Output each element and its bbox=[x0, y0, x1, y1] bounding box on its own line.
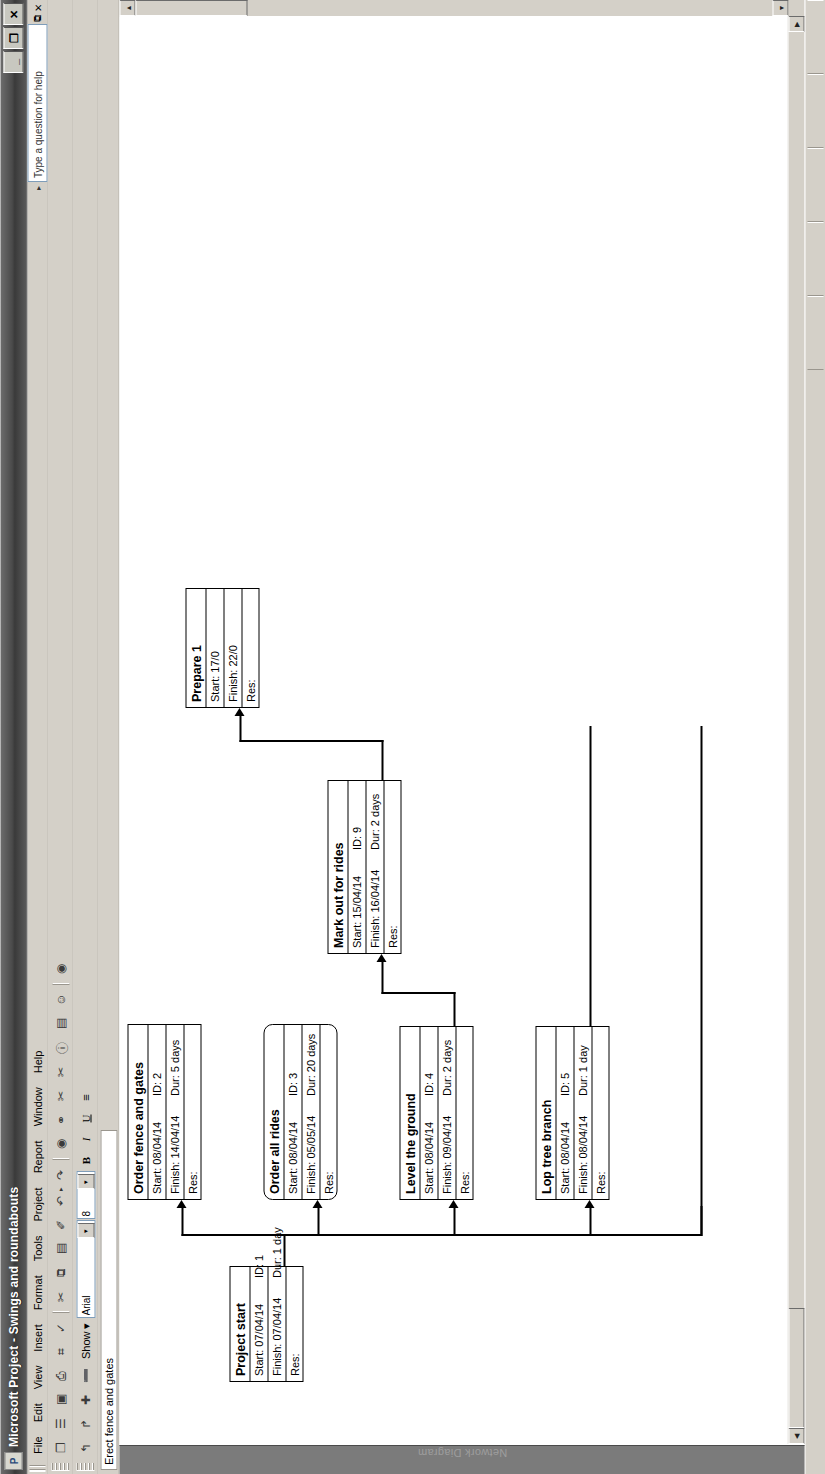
finish-value: 09/04/14 bbox=[440, 1116, 453, 1159]
task-node-row-start: Start: 08/04/14 ID: 4 bbox=[419, 1027, 437, 1199]
network-diagram-canvas[interactable]: Project start Start: 07/04/14 ID: 1 Fini… bbox=[119, 0, 804, 1445]
view-bar[interactable]: Network Diagram bbox=[119, 1445, 804, 1474]
save-icon[interactable]: ▣ bbox=[49, 1388, 71, 1411]
horizontal-scroll-thumb[interactable] bbox=[788, 1308, 804, 1428]
bold-button[interactable]: B bbox=[76, 1150, 95, 1170]
formatting-toolbar-grip[interactable] bbox=[76, 1463, 94, 1471]
menu-bar-grip[interactable] bbox=[29, 1464, 45, 1472]
task-node-order-fence-and-gates[interactable]: Order fence and gates Start: 08/04/14 ID… bbox=[127, 1024, 201, 1200]
italic-button[interactable]: I bbox=[76, 1129, 95, 1149]
print-preview-icon[interactable]: ⌗ bbox=[49, 1340, 71, 1363]
font-name-chevron-down-icon[interactable]: ▾ bbox=[77, 1223, 94, 1238]
status-cell-2 bbox=[807, 222, 823, 296]
link-arrow-icon bbox=[584, 1200, 594, 1208]
task-node-order-all-rides[interactable]: Order all rides Start: 08/04/14 ID: 3 Fi… bbox=[263, 1024, 337, 1200]
outdent-icon[interactable]: ↰ bbox=[74, 1436, 96, 1459]
entry-bar: Erect fence and gates bbox=[98, 0, 119, 1474]
link-tasks-icon[interactable]: ⚭ bbox=[49, 1108, 71, 1131]
task-node-row-finish: Finish: 05/05/14 Dur: 20 days bbox=[301, 1025, 319, 1199]
menu-item-help[interactable]: Help bbox=[29, 1044, 45, 1081]
task-node-mark-out-for-rides[interactable]: Mark out for rides Start: 15/04/14 ID: 9… bbox=[327, 780, 401, 954]
link-segment bbox=[239, 714, 241, 742]
link-segment bbox=[381, 993, 455, 995]
dur-value: 1 day bbox=[270, 1227, 283, 1254]
undo-dropdown-chevron-icon[interactable]: ▸ bbox=[56, 1187, 64, 1191]
task-node-prepare[interactable]: Prepare 1 Start: 17/0 Finish: 22/0 Res: bbox=[185, 588, 259, 708]
copy-icon[interactable]: ⧉ bbox=[49, 1261, 71, 1284]
menu-item-project[interactable]: Project bbox=[29, 1180, 45, 1228]
assign-resources-icon[interactable]: ☺ bbox=[49, 988, 71, 1011]
show-menu-button[interactable]: Show ▾ bbox=[77, 1319, 94, 1363]
id-label: ID: bbox=[286, 1082, 299, 1096]
link-segment bbox=[317, 1206, 319, 1236]
menu-item-view[interactable]: View bbox=[29, 1359, 45, 1397]
task-node-lop-tree-branch[interactable]: Lop tree branch Start: 08/04/14 ID: 5 Fi… bbox=[535, 1026, 609, 1200]
task-node-project-start[interactable]: Project start Start: 07/04/14 ID: 1 Fini… bbox=[229, 1266, 303, 1382]
font-name-combobox[interactable]: Arial ▾ bbox=[76, 1220, 95, 1318]
minimize-button[interactable]: _ bbox=[3, 51, 23, 73]
close-document-icon[interactable]: ✕ bbox=[32, 4, 43, 12]
task-node-title: Order fence and gates bbox=[128, 1025, 147, 1199]
vertical-scroll-thumb[interactable] bbox=[135, 0, 247, 16]
menu-item-file[interactable]: File bbox=[29, 1429, 45, 1461]
open-icon[interactable]: ☰ bbox=[49, 1412, 71, 1435]
restore-document-icon[interactable]: ⧉ bbox=[31, 15, 43, 22]
menu-item-window[interactable]: Window bbox=[29, 1080, 45, 1133]
horizontal-scrollbar[interactable]: ◀ ▶ bbox=[787, 16, 804, 1444]
standard-toolbar-grip[interactable] bbox=[51, 1463, 69, 1471]
font-size-chevron-down-icon[interactable]: ▾ bbox=[77, 1174, 94, 1189]
menu-item-format[interactable]: Format bbox=[29, 1268, 45, 1317]
res-label: Res: bbox=[288, 1353, 301, 1376]
cut-icon[interactable]: ✂ bbox=[49, 1285, 71, 1308]
finish-label: Finish: bbox=[440, 1162, 453, 1194]
new-icon[interactable]: ❐ bbox=[49, 1436, 71, 1459]
print-icon[interactable]: ⎙ bbox=[49, 1364, 71, 1387]
view-bar-label: Network Diagram bbox=[397, 1447, 527, 1459]
res-label: Res: bbox=[458, 1171, 471, 1194]
unlink-tasks-icon[interactable]: ✂ bbox=[49, 1084, 71, 1107]
restore-button[interactable]: ❐ bbox=[3, 27, 23, 49]
close-button[interactable]: ✕ bbox=[3, 3, 23, 25]
font-size-combobox[interactable]: 8 ▾ bbox=[76, 1171, 95, 1219]
scroll-down-arrow-icon[interactable]: ▼ bbox=[772, 0, 788, 16]
menu-item-edit[interactable]: Edit bbox=[29, 1396, 45, 1429]
task-information-icon[interactable]: ⓘ bbox=[49, 1036, 71, 1059]
help-icon[interactable]: ◉ bbox=[49, 957, 71, 980]
paste-icon[interactable]: ▤ bbox=[49, 1237, 71, 1260]
scroll-right-arrow-icon[interactable]: ▶ bbox=[788, 16, 804, 32]
format-painter-icon[interactable]: ✐ bbox=[49, 1213, 71, 1236]
menu-item-tools[interactable]: Tools bbox=[29, 1229, 45, 1269]
scroll-left-arrow-icon[interactable]: ◀ bbox=[788, 1428, 804, 1444]
underline-button[interactable]: U bbox=[76, 1108, 95, 1128]
hyperlink-icon[interactable]: ◉ bbox=[49, 1132, 71, 1155]
task-node-row-res: Res: bbox=[455, 1027, 473, 1199]
redo-icon[interactable]: ↷ bbox=[49, 1163, 71, 1186]
undo-icon[interactable]: ↶ bbox=[49, 1189, 71, 1212]
toolbar-separator-2 bbox=[52, 1158, 69, 1160]
task-node-level-the-ground[interactable]: Level the ground Start: 08/04/14 ID: 4 F… bbox=[399, 1026, 473, 1200]
show-subtasks-icon[interactable]: ✚ bbox=[74, 1388, 96, 1411]
res-label: Res: bbox=[386, 925, 399, 948]
hide-subtasks-icon[interactable]: ➖ bbox=[74, 1364, 96, 1387]
link-segment bbox=[453, 1206, 455, 1236]
start-value: 08/04/14 bbox=[558, 1122, 571, 1165]
link-segment bbox=[181, 1206, 183, 1236]
id-value: 1 bbox=[252, 1255, 265, 1261]
vertical-scrollbar[interactable]: ▲ ▼ bbox=[119, 0, 788, 17]
menu-item-report[interactable]: Report bbox=[29, 1133, 45, 1180]
id-value: 3 bbox=[286, 1073, 299, 1079]
show-menu-label: Show bbox=[79, 1331, 91, 1359]
start-value: 07/04/14 bbox=[252, 1304, 265, 1347]
scroll-up-arrow-icon[interactable]: ▲ bbox=[119, 0, 135, 16]
link-segment bbox=[589, 1206, 591, 1236]
align-left-icon[interactable]: ≡ bbox=[76, 1087, 95, 1107]
main-body: Network Diagram bbox=[119, 0, 804, 1474]
spelling-icon[interactable]: ✓ bbox=[49, 1316, 71, 1339]
menu-overflow-chevron-icon[interactable]: ▸ bbox=[33, 186, 42, 190]
indent-icon[interactable]: ↱ bbox=[74, 1412, 96, 1435]
split-task-icon[interactable]: ✂ bbox=[49, 1060, 71, 1083]
entry-field[interactable]: Erect fence and gates bbox=[100, 1130, 117, 1470]
task-notes-icon[interactable]: ▤ bbox=[49, 1012, 71, 1035]
menu-item-insert[interactable]: Insert bbox=[29, 1317, 45, 1359]
ask-a-question-input[interactable]: Type a question for help bbox=[27, 24, 47, 182]
